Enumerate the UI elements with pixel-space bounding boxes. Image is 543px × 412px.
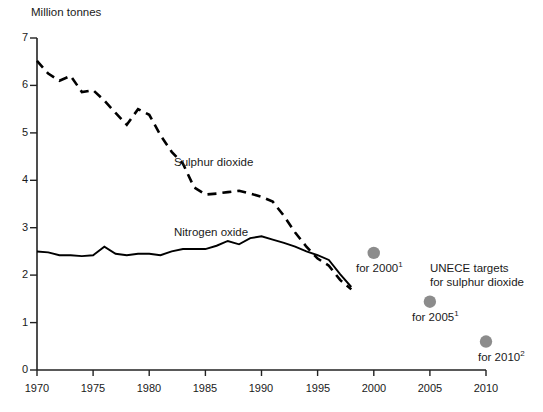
y-tick-label-2: 2 <box>6 268 28 280</box>
y-axis-ticks <box>30 38 37 370</box>
unece-targets-note: UNECE targets for sulphur dioxide <box>430 261 524 289</box>
chart-figure: Million tonnes <box>0 0 543 412</box>
target-label-2005-footnote: 1 <box>454 309 458 318</box>
y-tick-label-0: 0 <box>6 363 28 375</box>
target-dot-2000 <box>368 247 380 259</box>
target-dot-2010 <box>480 335 492 347</box>
target-label-2010-footnote: 2 <box>520 349 524 358</box>
x-axis-ticks <box>37 370 486 376</box>
y-tick-label-5: 5 <box>6 126 28 138</box>
target-label-2000-text: for 2000 <box>356 262 398 274</box>
y-tick-label-4: 4 <box>6 173 28 185</box>
x-tick-label-2010: 2010 <box>463 382 509 394</box>
target-label-2005-text: for 2005 <box>412 311 454 323</box>
target-dot-2005 <box>424 296 436 308</box>
x-tick-label-1980: 1980 <box>126 382 172 394</box>
x-tick-label-1985: 1985 <box>182 382 228 394</box>
chart-axes <box>30 38 486 376</box>
y-tick-label-1: 1 <box>6 316 28 328</box>
target-label-2000-footnote: 1 <box>398 260 402 269</box>
y-tick-label-7: 7 <box>6 31 28 43</box>
x-tick-label-1970: 1970 <box>14 382 60 394</box>
target-label-2005: for 20051 <box>412 311 459 323</box>
target-label-2010-text: for 2010 <box>478 351 520 363</box>
chart-series-group <box>37 61 351 290</box>
y-tick-label-3: 3 <box>6 221 28 233</box>
target-label-2010: for 20102 <box>478 351 525 363</box>
series-label-nitrogen-oxide: Nitrogen oxide <box>174 226 248 238</box>
target-label-2000: for 20001 <box>356 262 403 274</box>
unece-targets-line2: for sulphur dioxide <box>430 275 524 289</box>
unece-targets-line1: UNECE targets <box>430 261 524 275</box>
x-tick-label-1995: 1995 <box>295 382 341 394</box>
chart-plot-area <box>0 0 543 412</box>
series-label-sulphur-dioxide: Sulphur dioxide <box>174 156 253 168</box>
y-tick-label-6: 6 <box>6 78 28 90</box>
x-tick-label-2000: 2000 <box>351 382 397 394</box>
x-tick-label-2005: 2005 <box>407 382 453 394</box>
series-nitrogen-oxide <box>37 236 351 287</box>
x-tick-label-1990: 1990 <box>238 382 284 394</box>
x-tick-label-1975: 1975 <box>70 382 116 394</box>
